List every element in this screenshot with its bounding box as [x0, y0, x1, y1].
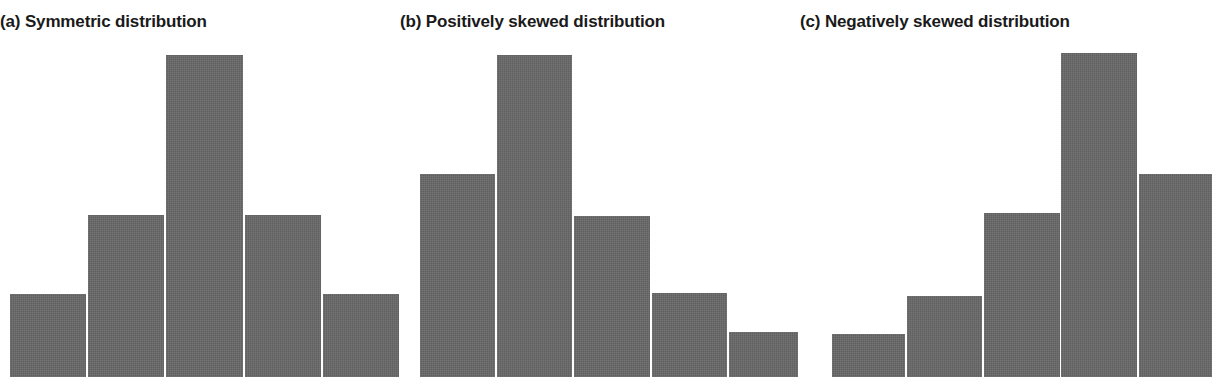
histogram-bar	[574, 216, 650, 377]
panel-positively-skewed-distribution: (b) Positively skewed distribution	[400, 0, 800, 377]
panel-b-title: (b) Positively skewed distribution	[400, 12, 665, 32]
panel-c-title: (c) Negatively skewed distribution	[800, 12, 1070, 32]
panel-a-title: (a) Symmetric distribution	[0, 12, 207, 32]
histogram-b	[400, 40, 800, 377]
histogram-bar	[420, 174, 495, 377]
panel-negatively-skewed-distribution: (c) Negatively skewed distribution	[800, 0, 1216, 377]
histogram-bar	[984, 213, 1060, 377]
histogram-bar	[10, 294, 86, 377]
histogram-bar	[497, 55, 572, 377]
histogram-bar	[652, 293, 727, 377]
histogram-bar	[1061, 53, 1137, 377]
histogram-bar	[245, 215, 321, 377]
histogram-bar	[323, 294, 399, 377]
histogram-c	[800, 40, 1216, 377]
histogram-bar	[1139, 174, 1212, 377]
histogram-bar	[907, 296, 982, 377]
histogram-a	[0, 40, 400, 377]
histogram-bar	[166, 55, 243, 377]
panel-symmetric-distribution: (a) Symmetric distribution	[0, 0, 400, 377]
histogram-bar	[832, 334, 905, 377]
histogram-bar	[88, 215, 164, 377]
histogram-bar	[729, 332, 798, 377]
figure-container: (a) Symmetric distribution (b) Positivel…	[0, 0, 1216, 377]
